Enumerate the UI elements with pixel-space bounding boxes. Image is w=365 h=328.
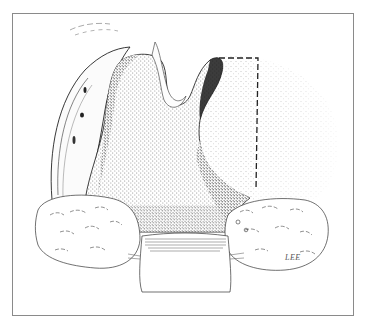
right-bottom-pad bbox=[225, 199, 328, 271]
anatomical-illustration bbox=[0, 0, 365, 328]
artist-signature: LEE bbox=[285, 253, 301, 262]
left-bottom-pad bbox=[35, 195, 140, 268]
